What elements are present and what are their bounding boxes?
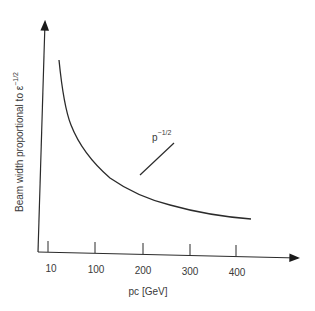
reference-slope-label: p−1/2 (152, 129, 171, 143)
chart: 10 100 200 300 400 pc [GeV] Beam width p… (0, 0, 315, 311)
x-tick-label-200: 200 (135, 265, 152, 276)
y-axis-title-exponent: −1/2 (12, 72, 19, 86)
x-tick-label-100: 100 (88, 264, 105, 275)
x-tick-label-300: 300 (182, 266, 199, 277)
x-tick-label-10: 10 (45, 263, 57, 274)
y-axis-title-base: Beam width proportional to ε (14, 85, 25, 212)
x-axis (38, 252, 298, 258)
reference-slope-label-exponent: −1/2 (158, 129, 172, 136)
y-axis (38, 22, 45, 252)
reference-slope-line (140, 143, 174, 175)
x-axis-title: pc [GeV] (129, 286, 168, 297)
y-axis-title: Beam width proportional to ε−1/2 (12, 72, 25, 212)
x-ticks (48, 241, 236, 256)
x-tick-label-400: 400 (229, 267, 246, 278)
